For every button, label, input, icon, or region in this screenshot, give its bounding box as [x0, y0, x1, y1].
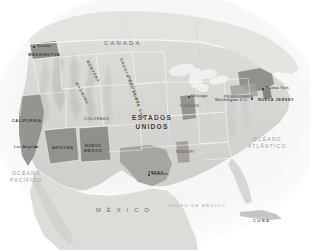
state-mississippi	[176, 141, 190, 163]
state-new-mexico	[79, 126, 111, 162]
map-graphic	[0, 0, 310, 251]
map-container: CANADA M É X I C O ESTADOS UNIDOS OCÉANO…	[0, 0, 310, 251]
